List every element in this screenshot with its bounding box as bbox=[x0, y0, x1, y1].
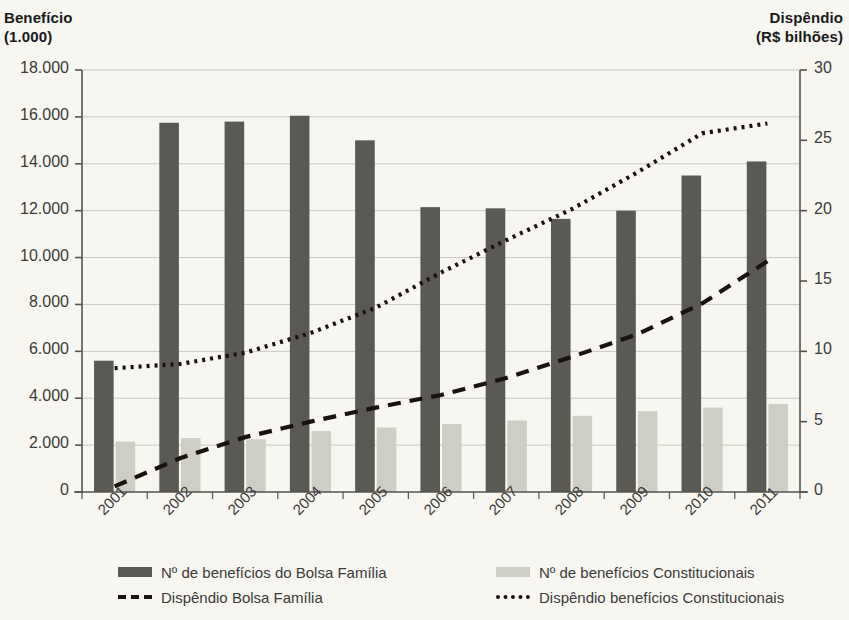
legend-item-line_bolsa: Dispêndio Bolsa Família bbox=[118, 587, 387, 607]
legend-right-column: Nº de benefícios ConstitucionaisDispêndi… bbox=[496, 562, 784, 612]
bar-constitucionais bbox=[311, 431, 331, 492]
legend-label: Nº de benefícios do Bolsa Família bbox=[161, 564, 387, 581]
light-swatch-icon bbox=[496, 567, 530, 577]
right-tick-label: 5 bbox=[814, 411, 823, 429]
bar-bolsa-familia bbox=[486, 208, 506, 492]
bar-bolsa-familia bbox=[420, 207, 440, 492]
right-tick-label: 30 bbox=[814, 59, 832, 77]
left-tick-label: 8.000 bbox=[29, 293, 69, 311]
left-tick-label: 14.000 bbox=[20, 153, 69, 171]
left-tick-label: 0 bbox=[60, 481, 69, 499]
bar-bolsa-familia bbox=[551, 219, 571, 492]
legend-item-bars_bolsa: Nº de benefícios do Bolsa Família bbox=[118, 562, 387, 582]
right-tick-label: 0 bbox=[814, 481, 823, 499]
right-tick-label: 25 bbox=[814, 129, 832, 147]
bar-bolsa-familia bbox=[616, 211, 636, 492]
legend-label: Nº de benefícios Constitucionais bbox=[539, 564, 755, 581]
left-tick-label: 2.000 bbox=[29, 434, 69, 452]
left-tick-label: 18.000 bbox=[20, 59, 69, 77]
legend-item-line_const: Dispêndio benefícios Constitucionais bbox=[496, 587, 784, 607]
left-tick-label: 12.000 bbox=[20, 200, 69, 218]
left-tick-label: 4.000 bbox=[29, 387, 69, 405]
legend-left-column: Nº de benefícios do Bolsa FamíliaDispênd… bbox=[118, 562, 387, 612]
bar-constitucionais bbox=[573, 416, 593, 492]
plot-area bbox=[0, 0, 849, 560]
bar-bolsa-familia bbox=[747, 161, 767, 492]
bar-constitucionais bbox=[638, 411, 658, 492]
right-tick-label: 10 bbox=[814, 340, 832, 358]
legend-label: Dispêndio Bolsa Família bbox=[161, 589, 323, 606]
left-tick-label: 10.000 bbox=[20, 247, 69, 265]
bar-constitucionais bbox=[768, 404, 788, 492]
right-tick-label: 20 bbox=[814, 200, 832, 218]
dark-swatch-icon bbox=[118, 567, 152, 577]
dashed-line-icon bbox=[118, 595, 152, 599]
bar-bolsa-familia bbox=[159, 123, 179, 492]
bar-bolsa-familia bbox=[682, 176, 702, 493]
bar-constitucionais bbox=[507, 420, 527, 492]
legend-label: Dispêndio benefícios Constitucionais bbox=[539, 589, 784, 606]
left-tick-label: 6.000 bbox=[29, 340, 69, 358]
chart-container: Benefício (1.000) Dispêndio (R$ bilhões)… bbox=[0, 0, 849, 620]
bar-constitucionais bbox=[377, 428, 397, 492]
bar-bolsa-familia bbox=[290, 116, 310, 492]
bar-constitucionais bbox=[703, 408, 723, 492]
right-tick-label: 15 bbox=[814, 270, 832, 288]
bar-bolsa-familia bbox=[94, 361, 114, 492]
bar-constitucionais bbox=[442, 424, 462, 492]
dotted-line-icon bbox=[496, 595, 530, 599]
legend-item-bars_const: Nº de benefícios Constitucionais bbox=[496, 562, 784, 582]
left-tick-label: 16.000 bbox=[20, 106, 69, 124]
